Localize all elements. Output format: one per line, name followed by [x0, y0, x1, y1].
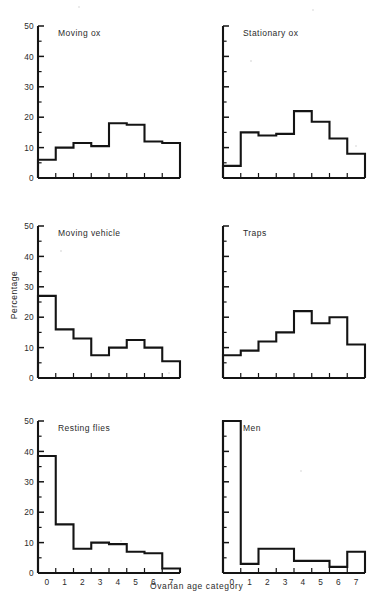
y-tick-label: 40 — [24, 447, 34, 457]
x-axis-label: Ovarian age category — [150, 581, 243, 591]
chart-svg-traps — [199, 218, 369, 393]
y-tick-label: 0 — [29, 568, 34, 578]
chart-title-resting-flies: Resting flies — [58, 423, 110, 433]
y-tick-label: 30 — [24, 82, 34, 92]
chart-panel-resting-flies: 0102030405001234567 Resting flies — [14, 413, 184, 588]
scan-speck — [168, 372, 170, 374]
chart-panel-moving-vehicle: 01020304050 Moving vehicle — [14, 218, 184, 393]
y-tick-label: 50 — [24, 416, 34, 426]
chart-svg-moving-ox: 01020304050 — [14, 18, 184, 193]
scan-speck — [300, 470, 302, 472]
y-tick-label: 40 — [24, 52, 34, 62]
x-tick-label: 6 — [336, 577, 341, 587]
x-tick-label: 4 — [300, 577, 305, 587]
figure-panel-grid: 01020304050 Moving ox Stationary ox 0102… — [0, 0, 369, 599]
x-tick-label: 2 — [265, 577, 270, 587]
y-axis-label: Percentage — [9, 255, 19, 335]
x-tick-label: 5 — [133, 577, 138, 587]
chart-title-stationary-ox: Stationary ox — [243, 28, 298, 38]
chart-title-men: Men — [243, 423, 261, 433]
scan-speck — [120, 540, 122, 542]
y-tick-label: 20 — [24, 507, 34, 517]
chart-panel-traps: Traps — [199, 218, 369, 393]
x-tick-label: 1 — [62, 577, 67, 587]
scan-speck — [60, 250, 62, 252]
scan-speck — [250, 60, 252, 62]
y-tick-label: 20 — [24, 112, 34, 122]
chart-panel-moving-ox: 01020304050 Moving ox — [14, 18, 184, 193]
chart-title-moving-ox: Moving ox — [58, 28, 101, 38]
x-tick-label: 7 — [354, 577, 359, 587]
histogram-step-outline — [223, 311, 365, 378]
x-tick-label: 0 — [44, 577, 49, 587]
scan-speck — [312, 9, 314, 11]
y-tick-label: 10 — [24, 538, 34, 548]
histogram-step-outline — [223, 111, 365, 178]
chart-panel-stationary-ox: Stationary ox — [199, 18, 369, 193]
x-tick-label: 3 — [283, 577, 288, 587]
chart-svg-moving-vehicle: 01020304050 — [14, 218, 184, 393]
y-tick-label: 50 — [24, 221, 34, 231]
chart-title-traps: Traps — [243, 228, 267, 238]
x-tick-label: 4 — [115, 577, 120, 587]
y-tick-label: 0 — [29, 173, 34, 183]
scan-speck — [355, 145, 357, 147]
chart-panel-men: 01234567 Men — [199, 413, 369, 588]
x-tick-label: 5 — [318, 577, 323, 587]
chart-svg-men: 01234567 — [199, 413, 369, 588]
histogram-step-outline — [38, 456, 180, 573]
histogram-step-outline — [38, 123, 180, 178]
y-tick-label: 0 — [29, 373, 34, 383]
chart-title-moving-vehicle: Moving vehicle — [58, 228, 121, 238]
y-tick-label: 30 — [24, 282, 34, 292]
scan-speck — [78, 6, 80, 8]
y-tick-label: 40 — [24, 252, 34, 262]
histogram-step-outline — [223, 421, 365, 573]
y-tick-label: 20 — [24, 312, 34, 322]
histogram-step-outline — [38, 296, 180, 378]
y-tick-label: 30 — [24, 477, 34, 487]
x-tick-label: 2 — [80, 577, 85, 587]
chart-svg-resting-flies: 0102030405001234567 — [14, 413, 184, 588]
y-tick-label: 10 — [24, 143, 34, 153]
x-tick-label: 3 — [98, 577, 103, 587]
y-tick-label: 10 — [24, 343, 34, 353]
chart-svg-stationary-ox — [199, 18, 369, 193]
y-tick-label: 50 — [24, 21, 34, 31]
x-tick-label: 1 — [247, 577, 252, 587]
